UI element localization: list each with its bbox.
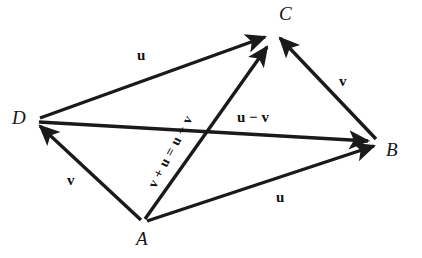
vertex-label-B: B [386, 140, 398, 159]
vector-label-u-AB: u [276, 190, 284, 205]
vector-label-u-minus-v: u − v [237, 110, 269, 125]
vertex-label-C: C [279, 4, 292, 23]
vector-diagram-svg [0, 0, 422, 258]
vector-diagram-figure: D A B C u u v v u − v v + u = u + v [0, 0, 422, 258]
vector-line-AD [40, 126, 141, 220]
vector-line-AB [147, 146, 374, 221]
vertex-label-A: A [136, 229, 148, 248]
vector-label-v-BC: v [339, 74, 347, 89]
vector-label-u-DC: u [137, 48, 145, 63]
vector-label-v-AD: v [67, 173, 75, 188]
vector-line-DC [40, 37, 265, 118]
vector-line-BC [280, 38, 376, 139]
vertex-label-D: D [12, 108, 26, 127]
